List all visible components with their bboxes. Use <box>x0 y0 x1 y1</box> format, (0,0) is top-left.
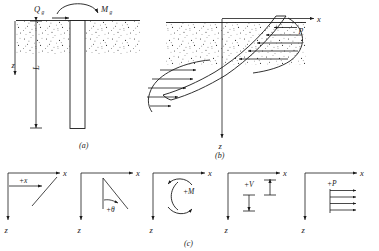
z-axis-label-c5: z <box>301 225 306 235</box>
z-axis-label-a: z <box>11 60 16 70</box>
z-axis-label-c1: z <box>4 225 9 235</box>
soil-reaction-label-c5: +P <box>327 179 337 188</box>
moment-arc-upper-c3 <box>168 179 192 185</box>
slope-label-c2: +θ <box>106 205 115 214</box>
moment-label-a: M <box>100 4 109 14</box>
x-axis-label-c1: x <box>62 168 67 178</box>
panel-a-caption: (a) <box>79 141 89 150</box>
pressure-arrows-lower-b <box>147 70 196 106</box>
moment-arc-a <box>57 4 98 14</box>
x-axis-label-c2: x <box>135 168 140 178</box>
slope-angle-arc-c2 <box>104 200 118 203</box>
panel-c: x z +x x z +θ x z +M <box>4 168 365 248</box>
panel-c-caption: (c) <box>184 239 193 248</box>
deflected-shape-c1 <box>32 177 57 206</box>
z-axis-label-c2: z <box>77 225 82 235</box>
engineering-figure: z L Q g M g (a) x z <box>0 0 379 251</box>
x-axis-label-c4: x <box>282 168 287 178</box>
panel-b: x z p (b) <box>147 14 321 161</box>
moment-arc-middle-c3 <box>171 182 178 210</box>
length-label-a: L <box>31 65 41 71</box>
moment-arc-lower-c3 <box>168 207 192 214</box>
convention-moment: x z +M <box>149 168 213 235</box>
convention-slope: x z +θ <box>77 168 141 235</box>
x-axis-label-c3: x <box>207 168 212 178</box>
z-axis-label-c4: z <box>224 225 229 235</box>
x-axis-label-c5: x <box>359 168 364 178</box>
soil-mass-b <box>166 23 306 65</box>
shear-label-c4: +V <box>244 180 255 189</box>
pressure-arrows-c5 <box>330 191 356 211</box>
z-axis-label-b: z <box>218 141 223 151</box>
convention-soil-reaction: x z +P <box>301 168 365 235</box>
moment-subscript-a: g <box>110 9 113 15</box>
deflected-pile-tip-b <box>163 95 171 100</box>
convention-shear: x z +V <box>224 168 288 235</box>
soil-reaction-label-b: p <box>298 24 303 34</box>
deflection-label-c1: +x <box>19 176 28 185</box>
z-axis-label-c3: z <box>149 225 154 235</box>
moment-label-c3: +M <box>183 187 195 196</box>
pressure-envelope-lower-b <box>148 60 210 112</box>
figure-canvas: z L Q g M g (a) x z <box>0 0 379 251</box>
lateral-load-label-a: Q <box>34 4 40 14</box>
convention-deflection: x z +x <box>4 168 68 235</box>
lateral-load-subscript-a: g <box>42 9 45 15</box>
panel-b-caption: (b) <box>215 151 225 160</box>
x-axis-label-b: x <box>316 14 321 24</box>
pile-shaft-a <box>70 21 85 129</box>
panel-a: z L Q g M g (a) <box>11 4 141 150</box>
